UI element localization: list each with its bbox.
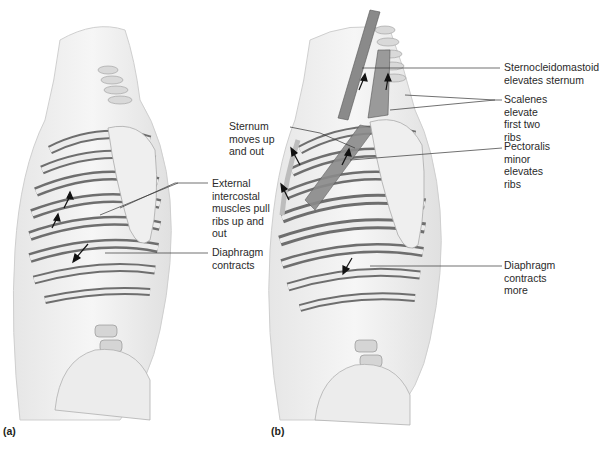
annotation-diaphragm-contracts-more: Diaphragm contracts more [504,259,555,297]
annotation-pectoralis-minor: Pectoralis minor elevates ribs [504,140,553,190]
panel-label-b: (b) [271,425,284,437]
annotation-scalenes: Scalenes elevate first two ribs [504,93,553,143]
panel-label-a: (a) [3,425,16,437]
panel-a: External intercostal muscles pull ribs u… [0,0,270,450]
annotation-sternocleidomastoid: Sternocleidomastoid elevates sternum [504,61,599,86]
panel-b: Sternocleidomastoid elevates sternum Sca… [240,0,553,450]
annotation-sternum: Sternum moves up and out [229,120,275,158]
